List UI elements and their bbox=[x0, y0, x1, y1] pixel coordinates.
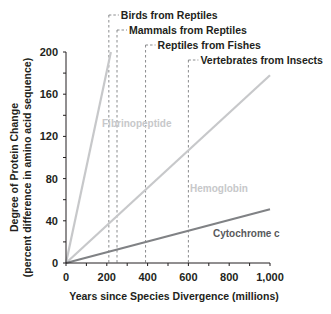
y-tick-label: 120 bbox=[40, 130, 58, 142]
x-tick-label: 800 bbox=[220, 271, 238, 283]
divergence-event-markers: Birds from ReptilesMammals from Reptiles… bbox=[109, 9, 323, 263]
series-label: Fibrinopeptide bbox=[102, 118, 172, 129]
y-tick-label: 80 bbox=[46, 173, 58, 185]
event-label: Vertebrates from Insects bbox=[200, 54, 323, 66]
y-tick-label: 160 bbox=[40, 88, 58, 100]
series-line bbox=[66, 52, 111, 263]
x-tick-label: 400 bbox=[138, 271, 156, 283]
x-tick-label: 0 bbox=[63, 271, 69, 283]
series-label: Cytochrome c bbox=[213, 228, 280, 239]
x-axis-title: Years since Species Divergence (millions… bbox=[69, 290, 279, 302]
y-axis-title: Degree of Protein Change bbox=[8, 103, 20, 232]
x-tick-label: 1,000 bbox=[256, 271, 284, 283]
y-tick-label: 40 bbox=[46, 215, 58, 227]
event-label: Birds from Reptiles bbox=[121, 9, 218, 21]
x-tick-label: 600 bbox=[179, 271, 197, 283]
axes: 0408012016020002004006008001,000 bbox=[40, 46, 284, 283]
series-label: Hemoglobin bbox=[190, 183, 248, 194]
protein-change-chart: Birds from ReptilesMammals from Reptiles… bbox=[0, 0, 331, 314]
y-axis-subtitle: (percent difference in amino acid sequen… bbox=[21, 58, 33, 277]
y-tick-label: 0 bbox=[52, 257, 58, 269]
event-label: Reptiles from Fishes bbox=[158, 39, 261, 51]
y-tick-label: 200 bbox=[40, 46, 58, 58]
x-tick-label: 200 bbox=[98, 271, 116, 283]
event-label: Mammals from Reptiles bbox=[129, 24, 247, 36]
